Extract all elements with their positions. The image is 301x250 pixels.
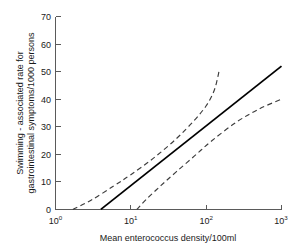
x-tick-exponent: 1 <box>134 214 138 221</box>
y-tick-label: 0 <box>46 205 51 215</box>
x-axis-tick-labels: 100 101 102 103 <box>49 214 289 226</box>
y-tick-label: 50 <box>41 67 51 77</box>
y-axis-title-line1: Swimming - associated rate for <box>15 51 25 175</box>
y-tick-label: 40 <box>41 95 51 105</box>
x-tick-exponent: 0 <box>59 214 63 221</box>
y-tick-label: 70 <box>41 12 51 22</box>
chart-canvas: 70 60 50 40 30 20 10 0 100 101 102 <box>0 0 301 250</box>
x-tick-exponent: 2 <box>209 214 213 221</box>
y-axis-tick-labels: 70 60 50 40 30 20 10 0 <box>41 12 51 215</box>
y-tick-label: 20 <box>41 150 51 160</box>
chart-figure: 70 60 50 40 30 20 10 0 100 101 102 <box>0 0 301 250</box>
y-tick-label: 30 <box>41 122 51 132</box>
x-axis-ticks <box>56 205 282 210</box>
x-tick-label: 103 <box>274 214 288 226</box>
y-axis-title-line2: gastrointestinal symptoms/1000 persons <box>26 32 36 194</box>
y-tick-label: 60 <box>41 40 51 50</box>
x-axis-title: Mean enterococcus density/100ml <box>100 233 237 243</box>
upper-confidence-band-line <box>73 69 220 210</box>
y-tick-label: 10 <box>41 177 51 187</box>
x-tick-mantissa: 10 <box>49 216 59 226</box>
y-axis-ticks <box>56 17 61 210</box>
x-tick-mantissa: 10 <box>124 216 134 226</box>
fitted-regression-line <box>101 66 282 209</box>
x-tick-mantissa: 10 <box>274 216 284 226</box>
x-tick-label: 101 <box>124 214 138 226</box>
x-tick-exponent: 3 <box>284 214 288 221</box>
x-tick-label: 102 <box>199 214 213 226</box>
x-tick-mantissa: 10 <box>199 216 209 226</box>
x-tick-label: 100 <box>49 214 63 226</box>
